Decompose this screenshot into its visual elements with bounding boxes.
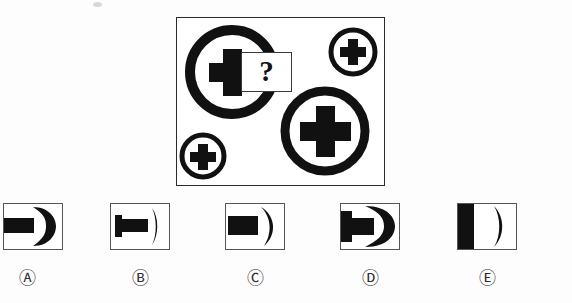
option-b-label: Ⓑ [120, 264, 160, 289]
small-circle-cross-top-right [331, 30, 375, 74]
option-d[interactable] [340, 203, 400, 250]
option-a-crescent [33, 207, 56, 246]
option-a-bar [4, 218, 34, 233]
option-c-box[interactable] [225, 203, 285, 250]
option-c-crescent [261, 207, 273, 246]
option-e-box[interactable] [457, 203, 517, 250]
option-d-figure [341, 204, 399, 249]
option-e-figure [458, 204, 516, 249]
scan-artifact-speck [93, 2, 102, 7]
option-e-crescent [494, 206, 502, 247]
option-a[interactable] [3, 203, 63, 250]
option-b-box[interactable] [110, 203, 170, 250]
large-circle-cross-bottom-right [285, 91, 365, 171]
option-c-bar [228, 216, 258, 235]
option-e[interactable] [457, 203, 517, 250]
option-e-label: Ⓔ [467, 264, 507, 289]
question-mark-text: ? [259, 57, 274, 86]
puzzle-panel [176, 17, 385, 186]
question-mark-box: ? [241, 52, 292, 92]
option-a-box[interactable] [3, 203, 63, 250]
option-d-bar [341, 218, 374, 235]
option-c[interactable] [225, 203, 285, 250]
option-d-box[interactable] [340, 203, 400, 250]
puzzle-figures [177, 18, 383, 184]
option-b-figure [111, 204, 169, 249]
option-b[interactable] [110, 203, 170, 250]
puzzle-stage: ? Ⓐ Ⓑ [0, 0, 572, 303]
option-c-figure [226, 204, 284, 249]
option-e-bar [458, 204, 474, 249]
option-d-label: Ⓓ [350, 264, 390, 289]
small-circle-cross-bottom-left [182, 135, 224, 177]
option-b-bar [115, 219, 148, 232]
option-a-figure [4, 204, 62, 249]
option-c-label: Ⓒ [235, 264, 275, 289]
option-b-crescent [152, 208, 157, 245]
option-a-label: Ⓐ [7, 264, 47, 289]
